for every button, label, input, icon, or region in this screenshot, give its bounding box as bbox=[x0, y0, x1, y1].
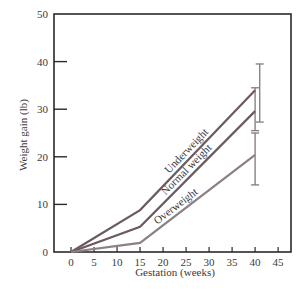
y-tick-label: 0 bbox=[43, 246, 49, 258]
x-tick-label: 0 bbox=[68, 256, 74, 268]
x-tick-label: 45 bbox=[273, 256, 285, 268]
y-tick-label: 40 bbox=[37, 56, 49, 68]
error-bar bbox=[256, 64, 264, 122]
y-tick-label: 50 bbox=[37, 8, 49, 20]
x-tick-label: 40 bbox=[250, 256, 262, 268]
series-line-underweight bbox=[71, 90, 255, 252]
y-tick-label: 30 bbox=[37, 103, 49, 115]
x-tick-label: 5 bbox=[91, 256, 97, 268]
series-line-normal-weight bbox=[71, 111, 255, 252]
x-axis-label: Gestation (weeks) bbox=[135, 266, 215, 279]
x-tick-label: 35 bbox=[227, 256, 239, 268]
weight-gain-chart: 01020304050 051015202530354045 Underweig… bbox=[0, 0, 307, 294]
y-axis-label: Weight gain (lb) bbox=[17, 99, 30, 171]
y-tick-label: 20 bbox=[37, 151, 49, 163]
error-bar bbox=[251, 133, 259, 185]
x-tick-label: 10 bbox=[112, 256, 124, 268]
y-tick-label: 10 bbox=[37, 198, 49, 210]
